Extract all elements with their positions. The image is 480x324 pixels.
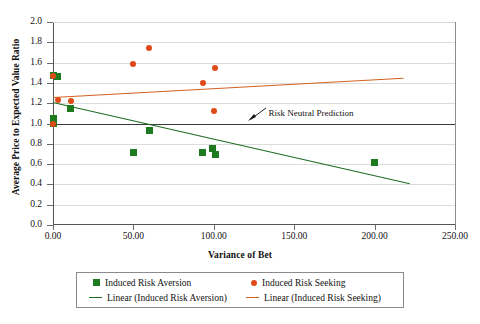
orange-circle-marker-icon [251, 280, 257, 286]
chart-figure: 0.00.20.40.60.81.01.21.41.61.82.0 0.0050… [0, 0, 480, 324]
x-axis-tick-label: 50.00 [103, 231, 163, 241]
orange-line-icon [246, 297, 259, 298]
risk-neutral-prediction-label: Risk Neutral Prediction [268, 108, 353, 118]
legend-item-induced-risk-aversion[interactable]: Induced Risk Aversion [83, 278, 240, 288]
data-point [50, 73, 56, 79]
annotation-arrow-icon [246, 107, 268, 123]
data-point [67, 105, 74, 112]
x-axis-tick-label: 0.00 [23, 231, 83, 241]
reference-line [53, 124, 455, 125]
legend-label: Induced Risk Seeking [262, 278, 345, 288]
x-axis-tick-label: 250.00 [425, 231, 480, 241]
y-axis-tick [47, 42, 53, 43]
x-axis-tick [294, 225, 295, 230]
legend-label: Linear (Induced Risk Aversion) [107, 293, 227, 303]
y-axis-tick [47, 205, 53, 206]
x-axis-tick-label: 150.00 [264, 231, 324, 241]
data-point [371, 159, 378, 166]
data-point [68, 98, 74, 104]
data-point [146, 127, 153, 134]
x-axis-tick [133, 225, 134, 230]
plot-right-border [455, 22, 456, 225]
green-line-icon [89, 297, 102, 298]
y-axis-tick [47, 22, 53, 23]
y-axis-tick [47, 83, 53, 84]
y-axis-tick [47, 103, 53, 104]
legend-item-linear-induced-risk-aversion[interactable]: Linear (Induced Risk Aversion) [83, 293, 240, 303]
x-axis-tick-label: 100.00 [184, 231, 244, 241]
x-axis-title: Variance of Bet [0, 250, 480, 260]
data-point [130, 149, 137, 156]
plot-top-border [53, 22, 455, 23]
data-point [200, 80, 206, 86]
y-axis-tick [47, 63, 53, 64]
x-axis-tick [375, 225, 376, 230]
green-square-marker-icon [93, 279, 100, 286]
y-axis-tick [47, 164, 53, 165]
x-axis-tick [455, 225, 456, 230]
y-axis-tick-label: 0.0 [8, 220, 42, 229]
legend-item-linear-induced-risk-seeking[interactable]: Linear (Induced Risk Seeking) [240, 293, 397, 303]
legend-item-induced-risk-seeking[interactable]: Induced Risk Seeking [240, 278, 397, 288]
y-axis-tick [47, 144, 53, 145]
legend-label: Linear (Induced Risk Seeking) [264, 293, 381, 303]
data-point [199, 149, 206, 156]
chart-legend: Induced Risk Aversion Induced Risk Seeki… [76, 272, 404, 308]
data-point [212, 151, 219, 158]
legend-label: Induced Risk Aversion [105, 278, 191, 288]
x-axis-tick-label: 200.00 [345, 231, 405, 241]
y-axis-tick [47, 184, 53, 185]
x-axis-tick [53, 225, 54, 230]
data-point [55, 97, 61, 103]
data-point [50, 121, 56, 127]
x-axis-tick [214, 225, 215, 230]
y-axis-title: Average Price to Expected Value Ratio [11, 17, 21, 217]
